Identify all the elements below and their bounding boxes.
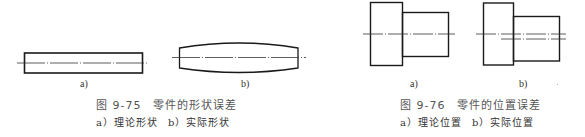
fig-9-76-b-shape: [476, 3, 566, 65]
fig-9-75-sub-a: a）理论形状: [96, 117, 158, 128]
fig-9-76-caption-sub: a）理论位置b）实际位置: [400, 117, 544, 129]
fig-9-76-panel-b-label: b): [519, 79, 527, 89]
fig-9-76-sub-b: b）实际位置: [472, 117, 534, 128]
fig-9-75-caption-sub: a）理论形状b）实际形状: [96, 117, 240, 129]
fig-9-75-b-shape: [172, 43, 306, 73]
fig-9-75-caption-title: 图 9-75 零件的形状误差: [96, 100, 237, 112]
fig-9-75-a-shape: [17, 53, 149, 73]
fig-9-75-sub-b: b）实际形状: [168, 117, 230, 128]
fig-9-76-caption-title: 图 9-76 零件的位置误差: [400, 100, 541, 112]
stray-dot: [557, 84, 558, 85]
fig-9-75-panel-a-label: a): [80, 79, 88, 89]
fig-9-76-sub-a: a）理论位置: [400, 117, 462, 128]
fig-9-76-a-shape: [363, 3, 455, 66]
fig-9-76-panel-a-label: a): [410, 79, 418, 89]
fig-9-75-panel-b-label: b): [241, 79, 249, 89]
